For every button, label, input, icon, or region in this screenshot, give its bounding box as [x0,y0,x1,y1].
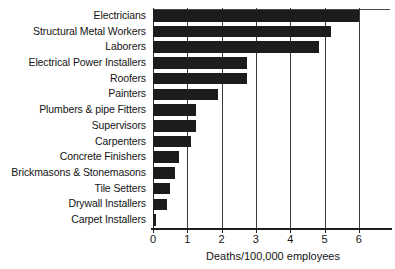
bar-roofers [153,73,247,85]
category-axis-labels: Electricians Structural Metal Workers La… [0,8,150,228]
tick-label-0: 0 [141,233,165,246]
bar-structural-metal-workers [153,26,331,38]
bar-tile-setters [153,183,170,195]
category-label-concrete-finishers: Concrete Finishers [0,151,146,162]
bar-row [153,87,362,103]
plot-area [153,8,362,228]
tick-label-3: 3 [244,233,268,246]
bar-row [153,24,362,40]
category-label-painters: Painters [0,88,146,99]
category-label-roofers: Roofers [0,73,146,84]
bar-row [153,149,362,165]
bar-row [153,102,362,118]
bar-chart: Electricians Structural Metal Workers La… [0,0,395,269]
bar-row [153,55,362,71]
bar-row [153,8,362,24]
bar-painters [153,89,218,101]
tick-label-2: 2 [210,233,234,246]
bar-plumbers-pipe-fitters [153,104,196,116]
category-label-electricians: Electricians [0,10,146,21]
category-label-carpet-installers: Carpet Installers [0,214,146,225]
tick-label-1: 1 [175,233,199,246]
category-label-structural-metal-workers: Structural Metal Workers [0,26,146,37]
x-axis-title: Deaths/100,000 employees [153,250,393,263]
category-label-supervisors: Supervisors [0,120,146,131]
category-label-plumbers-and-pipe-fitters: Plumbers & pipe Fitters [0,104,146,115]
bar-row [153,181,362,197]
bar-row [153,165,362,181]
bar-laborers [153,41,319,53]
bar-supervisors [153,120,196,132]
tick-label-4: 4 [278,233,302,246]
bar-row [153,134,362,150]
bar-drywall-installers [153,199,167,211]
bar-row [153,197,362,213]
category-label-laborers: Laborers [0,41,146,52]
category-label-tile-setters: Tile Setters [0,183,146,194]
bar-row [153,118,362,134]
bar-electricians [153,10,359,22]
bar-brickmasons-stonemasons [153,167,175,179]
bar-row [153,71,362,87]
tick-label-6: 6 [347,233,371,246]
category-label-brickmasons-and-stonemasons: Brickmasons & Stonemasons [0,167,146,178]
bar-row [153,212,362,228]
category-label-drywall-installers: Drywall Installers [0,198,146,209]
tick-label-5: 5 [313,233,337,246]
category-label-carpenters: Carpenters [0,136,146,147]
bar-row [153,39,362,55]
bar-concrete-finishers [153,151,179,163]
bar-carpenters [153,136,191,148]
bar-carpet-installers [153,214,156,226]
bar-electrical-power-installers [153,57,247,69]
category-label-electrical-power-installers: Electrical Power Installers [0,57,146,68]
